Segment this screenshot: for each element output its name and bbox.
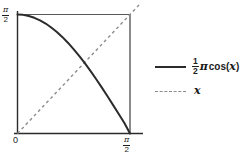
legend-line-sample-dashed (155, 91, 186, 95)
fraction-numerator: 1 (192, 57, 199, 65)
chart-legend: 1 2 πcos(x) x (155, 56, 247, 104)
pi-symbol: π (199, 60, 209, 73)
fraction-denominator: 2 (2, 16, 9, 24)
fraction-numerator: π (123, 136, 130, 144)
chart-figure: π 2 0 π 2 1 2 πcos(x) (0, 0, 247, 159)
closing-paren: ) (236, 61, 239, 72)
x-axis-tick-label-zero: 0 (13, 136, 18, 145)
legend-item-half-pi-cos: 1 2 πcos(x) (155, 56, 247, 80)
y-axis-tick-label-pi-over-2: π 2 (2, 6, 9, 24)
legend-item-identity-x: x (155, 80, 247, 104)
fraction-pi-over-2-x: π 2 (123, 136, 130, 154)
fraction-denominator: 2 (192, 67, 199, 75)
cos-function-text: cos( (209, 61, 230, 72)
fraction-one-half: 1 2 (192, 57, 199, 75)
variable-x: x (194, 84, 201, 97)
legend-label-x: x (194, 82, 201, 100)
fraction-denominator: 2 (123, 146, 130, 154)
fraction-pi-over-2-y: π 2 (2, 6, 9, 24)
legend-line-sample-solid (155, 66, 186, 71)
series-line-identity-x (18, 4, 140, 133)
fraction-numerator: π (2, 6, 9, 14)
legend-label-half-pi-cos: 1 2 πcos(x) (192, 58, 239, 76)
x-axis-tick-label-pi-over-2: π 2 (123, 136, 130, 154)
